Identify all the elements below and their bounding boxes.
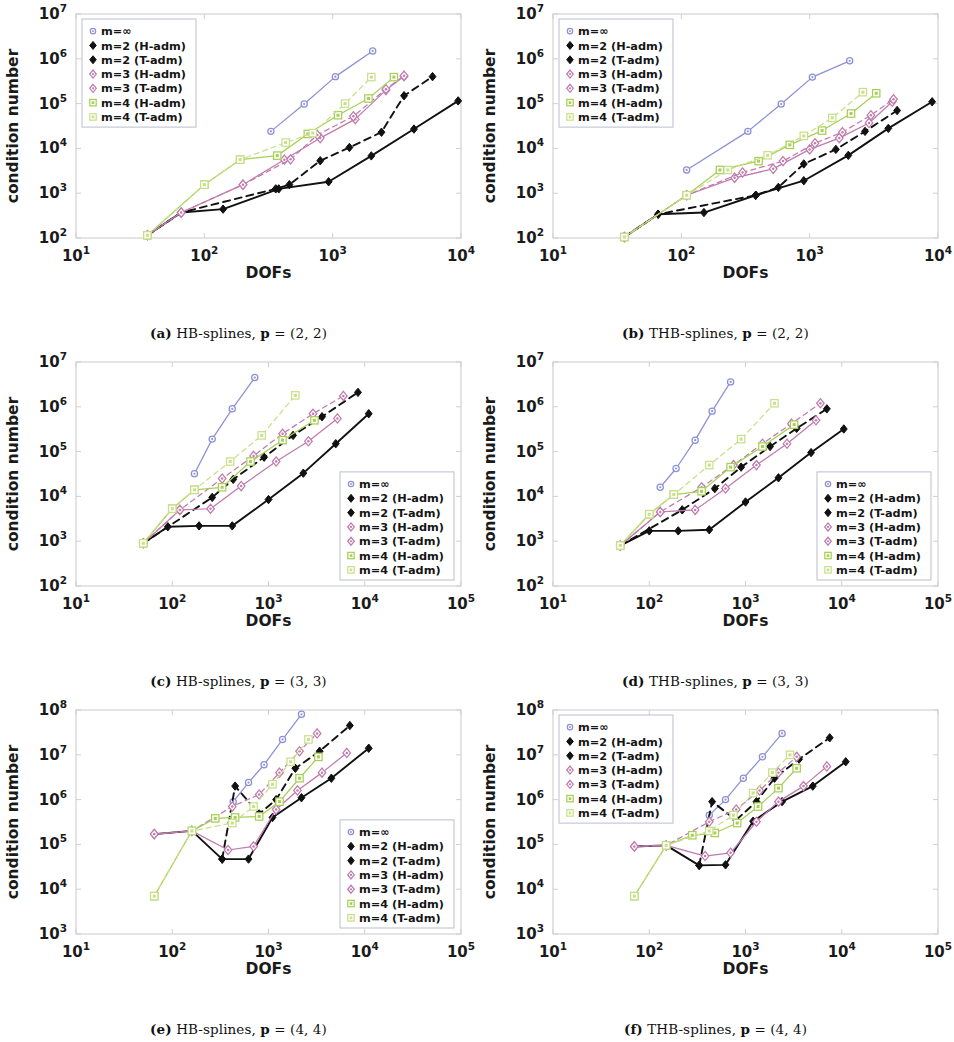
caption-d: (d) THB-splines, p = (3, 3) [477,673,954,689]
caption-text-b: THB-splines, [649,325,738,341]
x-tick-label: 101 [62,244,90,265]
caption-text-e: HB-splines, [176,1021,256,1037]
caption-eq-e: = (4, 4) [274,1021,327,1037]
x-tick-label: 103 [254,592,282,613]
chart-svg-f: 101102103104105103104105106107108DOFscon… [477,696,954,996]
y-tick-label: 107 [516,743,544,764]
x-axis-title: DOFs [723,960,769,978]
y-tick-label: 102 [39,226,67,247]
panel-e: 101102103104105103104105106107108DOFscon… [0,696,477,1042]
legend-label: m=4 (T-adm) [578,111,660,124]
legend-label: m=2 (T-adm) [578,54,660,67]
figure-condition-number-grid: 101102103104102103104105106107DOFscondit… [0,0,954,1042]
y-tick-label: 102 [39,574,67,595]
x-tick-label: 105 [447,592,475,613]
y-tick-label: 105 [39,832,67,853]
legend-label: m=3 (H-adm) [578,68,663,81]
x-axis-title: DOFs [723,612,769,630]
legend-label: m=4 (T-adm) [578,807,660,820]
legend-label: m=4 (H-adm) [359,898,444,911]
x-tick-label: 105 [924,940,952,961]
caption-label-a: (a) [150,325,172,341]
x-tick-label: 103 [254,940,282,961]
x-tick-label: 102 [635,940,663,961]
legend-a: m=∞m=2 (H-adm)m=2 (T-adm)m=3 (H-adm)m=3 … [82,19,196,127]
legend-label: m=∞ [578,25,609,38]
caption-text-d: THB-splines, [649,673,738,689]
caption-c: (c) HB-splines, p = (3, 3) [0,673,477,689]
legend-label: m=3 (T-adm) [578,82,660,95]
legend-label: m=3 (T-adm) [578,778,660,791]
legend-e: m=∞m=2 (H-adm)m=2 (T-adm)m=3 (H-adm)m=3 … [340,820,454,928]
x-tick-label: 102 [158,592,186,613]
series-3 [150,748,350,854]
x-tick-label: 101 [62,940,90,961]
caption-f: (f) THB-splines, p = (4, 4) [477,1021,954,1037]
x-tick-label: 104 [828,940,856,961]
panel-d: 101102103104105102103104105106107DOFscon… [477,348,954,695]
y-tick-label: 107 [516,350,544,371]
y-tick-label: 108 [39,698,67,719]
legend-label: m=4 (T-adm) [359,912,441,925]
legend-label: m=2 (T-adm) [359,855,441,868]
y-tick-label: 106 [39,47,67,68]
y-tick-label: 104 [516,484,544,505]
x-axis-title: DOFs [246,264,292,282]
legend-label: m=4 (H-adm) [101,97,186,110]
y-tick-label: 105 [516,92,544,113]
legend-label: m=3 (H-adm) [836,521,921,534]
legend-label: m=3 (H-adm) [578,764,663,777]
legend-label: m=∞ [101,25,132,38]
legend-label: m=2 (H-adm) [578,40,663,53]
caption-eq-b: = (2, 2) [756,325,809,341]
x-tick-label: 104 [351,592,379,613]
x-tick-label: 102 [158,940,186,961]
legend-label: m=2 (H-adm) [836,492,921,505]
legend-d: m=∞m=2 (H-adm)m=2 (T-adm)m=3 (H-adm)m=3 … [817,472,931,580]
legend-label: m=∞ [836,478,867,491]
y-tick-label: 102 [516,574,544,595]
legend-label: m=2 (H-adm) [359,840,444,853]
legend-label: m=3 (T-adm) [359,535,441,548]
caption-text-c: HB-splines, [176,673,256,689]
y-tick-label: 104 [516,877,544,898]
x-axis-title: DOFs [246,960,292,978]
legend-label: m=4 (T-adm) [836,564,918,577]
legend-label: m=2 (T-adm) [836,507,918,520]
y-tick-label: 103 [516,181,544,202]
caption-eq-f: = (4, 4) [754,1021,807,1037]
legend-label: m=4 (H-adm) [578,793,663,806]
y-axis-title: condition number [4,48,22,203]
panel-a: 101102103104102103104105106107DOFscondit… [0,0,477,347]
legend-c: m=∞m=2 (H-adm)m=2 (T-adm)m=3 (H-adm)m=3 … [340,472,454,580]
y-tick-label: 106 [39,788,67,809]
series-1 [140,410,372,548]
x-tick-label: 102 [635,592,663,613]
caption-label-c: (c) [150,673,171,689]
y-tick-label: 105 [516,440,544,461]
series-6 [617,400,779,550]
panel-b: 101102103104102103104105106107DOFscondit… [477,0,954,347]
caption-sym-c: p [260,673,270,689]
x-axis-title: DOFs [246,612,292,630]
legend-label: m=2 (T-adm) [101,54,183,67]
x-tick-label: 101 [62,592,90,613]
chart-svg-a: 101102103104102103104105106107DOFscondit… [0,0,477,300]
y-tick-label: 104 [39,877,67,898]
caption-sym-d: p [742,673,752,689]
y-tick-label: 108 [516,698,544,719]
x-tick-label: 105 [447,940,475,961]
caption-sym-e: p [260,1021,270,1037]
legend-label: m=3 (T-adm) [101,82,183,95]
legend-label: m=4 (H-adm) [578,97,663,110]
x-tick-label: 103 [319,244,347,265]
y-tick-label: 104 [39,484,67,505]
legend-label: m=4 (H-adm) [359,550,444,563]
y-tick-label: 103 [39,181,67,202]
y-axis-title: condition number [481,396,499,551]
y-axis-title: condition number [481,744,499,899]
x-tick-label: 105 [924,592,952,613]
y-tick-label: 102 [516,226,544,247]
y-tick-label: 105 [39,440,67,461]
legend-label: m=4 (T-adm) [359,564,441,577]
